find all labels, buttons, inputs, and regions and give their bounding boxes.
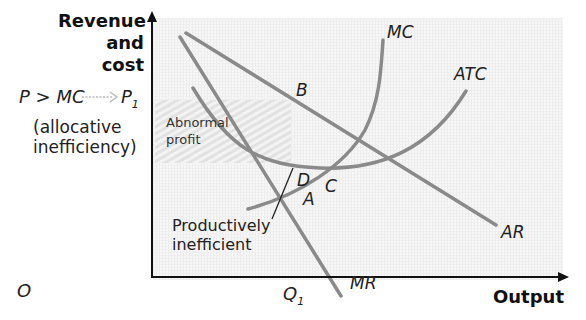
y-axis-title-line2: and cost xyxy=(58,32,144,76)
y-axis-title-line1: Revenue xyxy=(58,10,144,32)
allocative-line1: (allocative xyxy=(33,117,137,137)
point-a-label: A xyxy=(303,189,315,209)
q1-label: Q1 xyxy=(283,283,304,308)
p1-label: P1 xyxy=(121,86,139,111)
p1-subscript: 1 xyxy=(132,98,139,111)
mr-label: MR xyxy=(350,273,376,293)
price-mc-label: P > MC xyxy=(19,86,84,107)
abnormal-profit-label: Abnormal profit xyxy=(166,114,229,148)
atc-label: ATC xyxy=(454,64,487,84)
mc-label: MC xyxy=(387,22,414,42)
x-axis-title: Output xyxy=(493,286,564,308)
y-axis-arrow-icon xyxy=(147,11,157,22)
abnormal-line1: Abnormal xyxy=(166,114,229,131)
p1-letter: P xyxy=(121,86,132,107)
point-b-label: B xyxy=(296,80,308,100)
q1-letter: Q xyxy=(283,283,297,304)
x-axis-arrow-icon xyxy=(558,272,569,282)
point-d-label: D xyxy=(297,170,310,190)
point-c-label: C xyxy=(325,176,337,196)
productive-line2: inefficient xyxy=(172,235,270,254)
q1-subscript: 1 xyxy=(297,295,304,308)
allocative-inefficiency-note: (allocative inefficiency) xyxy=(33,117,137,157)
y-axis-title: Revenue and cost xyxy=(58,10,144,76)
ar-label: AR xyxy=(501,222,524,242)
productive-line1: Productively xyxy=(172,216,270,235)
origin-label: O xyxy=(17,280,31,301)
productively-inefficient-label: Productively inefficient xyxy=(172,216,270,254)
allocative-line2: inefficiency) xyxy=(33,137,137,157)
abnormal-line2: profit xyxy=(166,131,229,148)
